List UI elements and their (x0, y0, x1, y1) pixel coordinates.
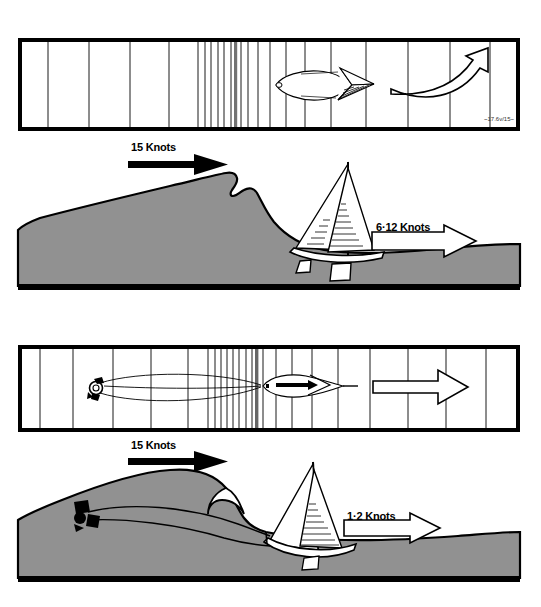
wind-speed-label-top: 15 Knots (131, 142, 176, 153)
bottom-plan-view-panel (18, 345, 520, 432)
top-plan-view-panel: ~17.6v/15~ (18, 38, 520, 131)
keel (330, 263, 351, 281)
sea-baseline (18, 576, 520, 582)
arrow-head (194, 154, 228, 175)
boat-speed-label-bottom: 1·2 Knots (347, 511, 395, 522)
sea-baseline (18, 284, 520, 290)
keel (302, 556, 319, 570)
drogue-mouth (74, 512, 86, 524)
top-plan-view-svg: ~17.6v/15~ (18, 38, 520, 131)
arrow-shaft (128, 458, 198, 465)
boat-stern-detail (276, 83, 282, 88)
bow-fitting (266, 384, 269, 388)
illustration-root: ~17.6v/15~ (0, 0, 541, 607)
drogue-body (74, 500, 90, 514)
arrow-head (194, 451, 228, 472)
wind-speed-label-bottom: 15 Knots (131, 440, 176, 451)
bottom-plan-view-svg (18, 345, 520, 432)
panel-border (20, 40, 518, 129)
artist-signature: ~17.6v/15~ (484, 116, 515, 122)
bow-fitting (266, 532, 267, 544)
arrow-shaft (128, 161, 198, 168)
boat-speed-label-top: 6·12 Knots (376, 222, 430, 233)
wave-crest-line-dense (234, 42, 237, 127)
drogue-lobe (86, 514, 100, 528)
drogue-inner (93, 385, 99, 391)
